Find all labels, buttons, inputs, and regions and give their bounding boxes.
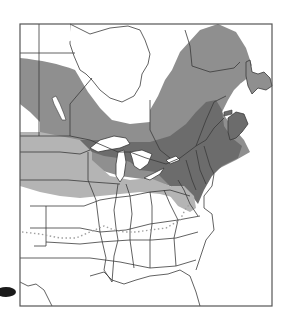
states-col-2 bbox=[112, 184, 118, 282]
range-map bbox=[0, 0, 297, 328]
dotted-southern-limit bbox=[22, 204, 190, 238]
arrow-marker bbox=[0, 287, 16, 297]
states-row-6 bbox=[20, 258, 196, 268]
texas-border bbox=[20, 282, 52, 306]
northern-blank bbox=[20, 24, 72, 46]
gulf-coast bbox=[90, 270, 200, 306]
lake-michigan bbox=[116, 150, 126, 182]
nova-scotia bbox=[228, 112, 248, 140]
states-col-west bbox=[34, 206, 46, 246]
